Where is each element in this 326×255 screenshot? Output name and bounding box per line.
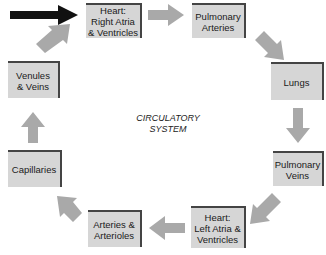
node-heart-right: Heart:Right Atria& Ventricles — [86, 3, 142, 38]
node-capillaries: Capillaries — [8, 150, 62, 187]
arrow-up-icon — [21, 112, 45, 143]
arrow-down-icon — [286, 108, 310, 143]
diagram-title: CIRCULATORY SYSTEM — [128, 113, 208, 135]
arrow-right-icon — [148, 4, 184, 26]
node-pulmonary-arteries: PulmonaryArteries — [192, 3, 246, 38]
arrow-down-right-icon — [255, 31, 284, 60]
arrow-up-right-icon — [36, 24, 70, 53]
arrow-up-left-icon — [57, 196, 82, 222]
arrow-down-left-icon — [250, 193, 281, 224]
arrow-left-icon — [149, 216, 185, 240]
node-arteries-arterioles: Arteries &Arterioles — [88, 210, 142, 247]
node-lungs: Lungs — [271, 62, 324, 100]
node-venules-veins: Venules& Veins — [8, 61, 60, 98]
node-pulmonary-veins: PulmonaryVeins — [273, 151, 324, 186]
node-heart-left: Heart:Left Atria &Ventricles — [191, 206, 246, 248]
entry-arrow-icon — [10, 5, 78, 25]
